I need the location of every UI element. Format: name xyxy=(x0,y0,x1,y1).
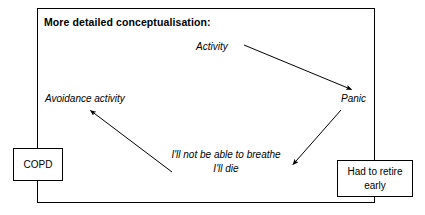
node-avoidance: Avoidance activity xyxy=(45,92,125,105)
node-activity: Activity xyxy=(196,40,228,53)
conceptualisation-diagram: More detailed conceptualisation: Activit… xyxy=(0,0,425,215)
node-retire-box: Had to retire early xyxy=(337,160,413,197)
node-retire-line-2: early xyxy=(347,179,402,193)
node-panic: Panic xyxy=(341,92,366,105)
diagram-title: More detailed conceptualisation: xyxy=(44,16,211,29)
node-retire-line-1: Had to retire xyxy=(347,165,402,179)
node-thought-line-1: I'll not be able to breathe xyxy=(160,148,292,162)
node-copd-label: COPD xyxy=(24,158,53,171)
node-thought-line-2: I'll die xyxy=(160,162,292,176)
node-copd-box: COPD xyxy=(13,148,63,181)
node-thought: I'll not be able to breathe I'll die xyxy=(160,148,292,175)
node-retire-text: Had to retire early xyxy=(347,165,402,192)
